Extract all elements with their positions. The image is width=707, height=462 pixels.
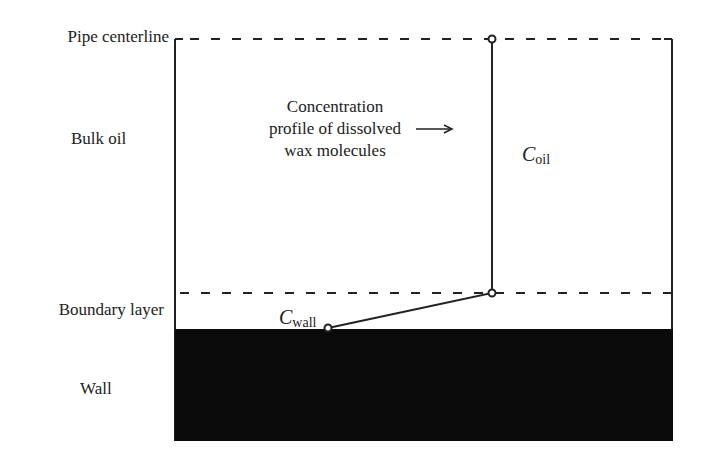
c-oil-main: C xyxy=(522,143,535,165)
annotation-line-2: profile of dissolved xyxy=(250,118,420,140)
c-wall-symbol: Cwall xyxy=(279,307,316,330)
annotation-line-3: wax molecules xyxy=(250,140,420,162)
bulk-oil-label: Bulk oil xyxy=(71,130,126,147)
pipe-centerline-label: Pipe centerline xyxy=(68,28,170,45)
boundary-point-marker xyxy=(489,290,496,297)
wall-region xyxy=(175,329,673,441)
centerline-point-marker xyxy=(489,36,496,43)
c-oil-symbol: Coil xyxy=(522,144,550,167)
concentration-profile-line xyxy=(328,39,492,328)
c-wall-main: C xyxy=(279,306,292,328)
c-oil-sub: oil xyxy=(535,152,550,167)
wall-label: Wall xyxy=(80,380,112,397)
boundary-layer-label: Boundary layer xyxy=(59,301,164,318)
annotation-line-1: Concentration xyxy=(250,96,420,118)
concentration-profile-annotation: Concentration profile of dissolved wax m… xyxy=(250,96,420,162)
wall-point-marker xyxy=(325,325,332,332)
c-wall-sub: wall xyxy=(292,315,316,330)
